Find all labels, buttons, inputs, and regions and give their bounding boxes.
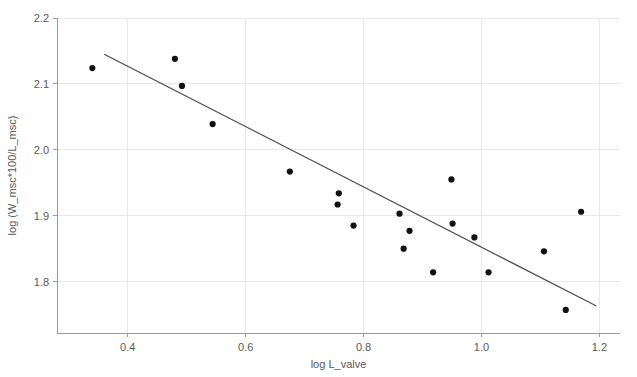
y-gridlines — [57, 18, 620, 282]
y-axis-title: log (W_msc*100/L_msc) — [6, 116, 18, 236]
data-point — [179, 83, 185, 89]
x-gridlines — [128, 18, 600, 333]
data-point — [287, 168, 293, 174]
y-tick-marks — [53, 18, 57, 282]
data-point — [406, 228, 412, 234]
scatter-chart: 0.40.60.81.01.2 1.81.92.02.12.2 log L_va… — [0, 0, 637, 377]
x-tick-label: 0.4 — [120, 341, 135, 353]
data-point — [396, 211, 402, 217]
data-point — [401, 246, 407, 252]
y-tick-labels: 1.81.92.02.12.2 — [34, 12, 49, 288]
data-point — [172, 56, 178, 62]
x-tick-labels: 0.40.60.81.01.2 — [120, 341, 607, 353]
y-tick-label: 1.9 — [34, 210, 49, 222]
data-point — [336, 190, 342, 196]
data-point — [471, 234, 477, 240]
data-point — [578, 209, 584, 215]
data-point — [335, 201, 341, 207]
regression-line — [104, 54, 596, 306]
data-point — [563, 307, 569, 313]
x-tick-marks — [128, 333, 600, 337]
y-tick-label: 2.2 — [34, 12, 49, 24]
data-points — [89, 56, 584, 313]
y-tick-label: 1.8 — [34, 276, 49, 288]
x-tick-label: 1.0 — [474, 341, 489, 353]
x-tick-label: 0.6 — [238, 341, 253, 353]
data-point — [430, 269, 436, 275]
x-tick-label: 1.2 — [592, 341, 607, 353]
data-point — [350, 222, 356, 228]
data-point — [541, 248, 547, 254]
axis-frame — [57, 18, 620, 333]
x-axis-title: log L_valve — [311, 358, 367, 370]
data-point — [449, 221, 455, 227]
y-tick-label: 2.0 — [34, 144, 49, 156]
plot-canvas: 0.40.60.81.01.2 1.81.92.02.12.2 log L_va… — [0, 0, 637, 377]
data-point — [485, 269, 491, 275]
x-tick-label: 0.8 — [356, 341, 371, 353]
y-tick-label: 2.1 — [34, 78, 49, 90]
data-point — [448, 176, 454, 182]
data-point — [210, 121, 216, 127]
data-point — [89, 65, 95, 71]
